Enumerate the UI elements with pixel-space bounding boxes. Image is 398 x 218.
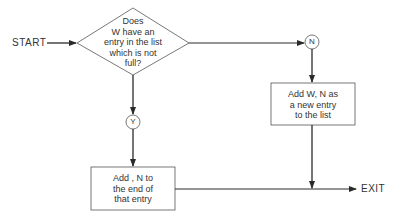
decision-line: full? (93, 58, 173, 69)
no-action-line: a new entry (271, 100, 355, 111)
start-label: START (12, 37, 46, 48)
decision-text: Does W have an entry in the list which i… (93, 16, 173, 69)
decision-line: W have an (93, 27, 173, 38)
decision-line: which is not (93, 48, 173, 59)
yes-label: Y (126, 115, 140, 129)
yes-action-line: Add , N to (91, 173, 175, 184)
no-label: N (305, 35, 319, 49)
yes-action-text: Add , N to the end of that entry (91, 173, 175, 205)
no-action-text: Add W, N as a new entry to the list (271, 89, 355, 121)
exit-label: EXIT (361, 183, 385, 194)
decision-line: entry in the list (93, 37, 173, 48)
decision-line: Does (93, 16, 173, 27)
no-action-line: to the list (271, 110, 355, 121)
yes-action-line: that entry (91, 194, 175, 205)
yes-action-line: the end of (91, 184, 175, 195)
no-action-line: Add W, N as (271, 89, 355, 100)
